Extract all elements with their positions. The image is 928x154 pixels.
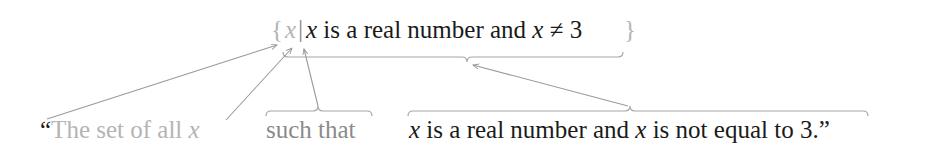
condition-brace	[283, 52, 623, 62]
arrow-condition	[473, 65, 628, 106]
such-that-brace	[266, 106, 372, 116]
annotation-lines	[0, 0, 928, 154]
arrow-set-of-all	[47, 45, 277, 119]
translation-condition-brace	[408, 106, 868, 116]
